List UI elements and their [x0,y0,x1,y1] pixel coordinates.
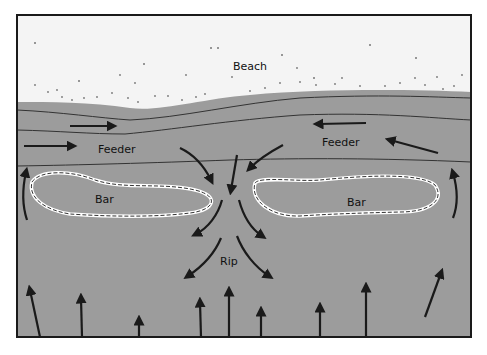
feeder-left-label: Feeder [98,143,136,156]
arrow-wave-4 [200,302,201,337]
bar-left-label: Bar [95,193,114,206]
rip-label: Rip [220,255,238,268]
beach-label: Beach [233,60,267,73]
bar-right-label: Bar [347,196,366,209]
arrow-feeder-right-top [318,123,366,124]
feeder-right-label: Feeder [322,136,360,149]
rip-current-diagram: Beach Feeder Feeder Bar Bar Rip [0,0,487,355]
arrow-wave-2 [81,298,82,337]
